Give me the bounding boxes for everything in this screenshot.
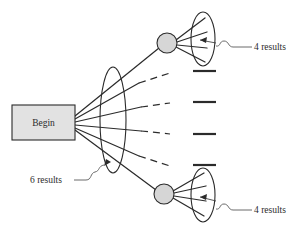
annotation-bottom-leader bbox=[216, 204, 252, 210]
top-expanded-node-circle[interactable] bbox=[157, 33, 177, 53]
bottom-fan-edge-4 bbox=[173, 198, 204, 216]
annotation-left-leader bbox=[74, 165, 104, 180]
diagram-svg: Begin bbox=[0, 0, 305, 235]
left-result-set-ellipse bbox=[100, 67, 126, 173]
edge-unexpanded-3-dash bbox=[141, 131, 170, 134]
annotation-bottom-label: 4 results bbox=[254, 205, 286, 215]
annotation-top-leader bbox=[216, 41, 252, 47]
diagram-canvas: Begin bbox=[0, 0, 305, 235]
begin-box-label: Begin bbox=[32, 118, 55, 128]
annotation-top: 4 results bbox=[200, 37, 286, 52]
annotation-top-label: 4 results bbox=[254, 42, 286, 52]
edge-unexpanded-1-dash bbox=[139, 73, 170, 83]
annotation-left: 6 results bbox=[30, 159, 111, 185]
annotation-left-arrowhead bbox=[104, 159, 111, 166]
edge-unexpanded-4-dash bbox=[139, 156, 170, 166]
edge-to-bottom-node bbox=[75, 130, 156, 190]
edge-unexpanded-1-solid bbox=[75, 83, 139, 119]
bottom-result-set-ellipse bbox=[191, 168, 215, 222]
annotation-bottom-arrowhead bbox=[200, 194, 207, 200]
annotation-top-arrowhead bbox=[200, 37, 207, 43]
edge-group-from-begin bbox=[75, 48, 170, 190]
unexpanded-markers-group bbox=[193, 71, 216, 165]
edge-unexpanded-2-solid bbox=[75, 107, 141, 122]
edge-unexpanded-4-solid bbox=[75, 128, 139, 156]
begin-node[interactable]: Begin bbox=[12, 105, 75, 140]
edge-unexpanded-2-dash bbox=[141, 103, 170, 107]
edge-unexpanded-3-solid bbox=[75, 125, 141, 131]
bottom-fan-edge-1 bbox=[173, 173, 204, 191]
top-fan-edge-4 bbox=[176, 47, 205, 62]
bottom-expanded-node-circle[interactable] bbox=[154, 184, 174, 204]
annotation-left-label: 6 results bbox=[30, 175, 62, 185]
